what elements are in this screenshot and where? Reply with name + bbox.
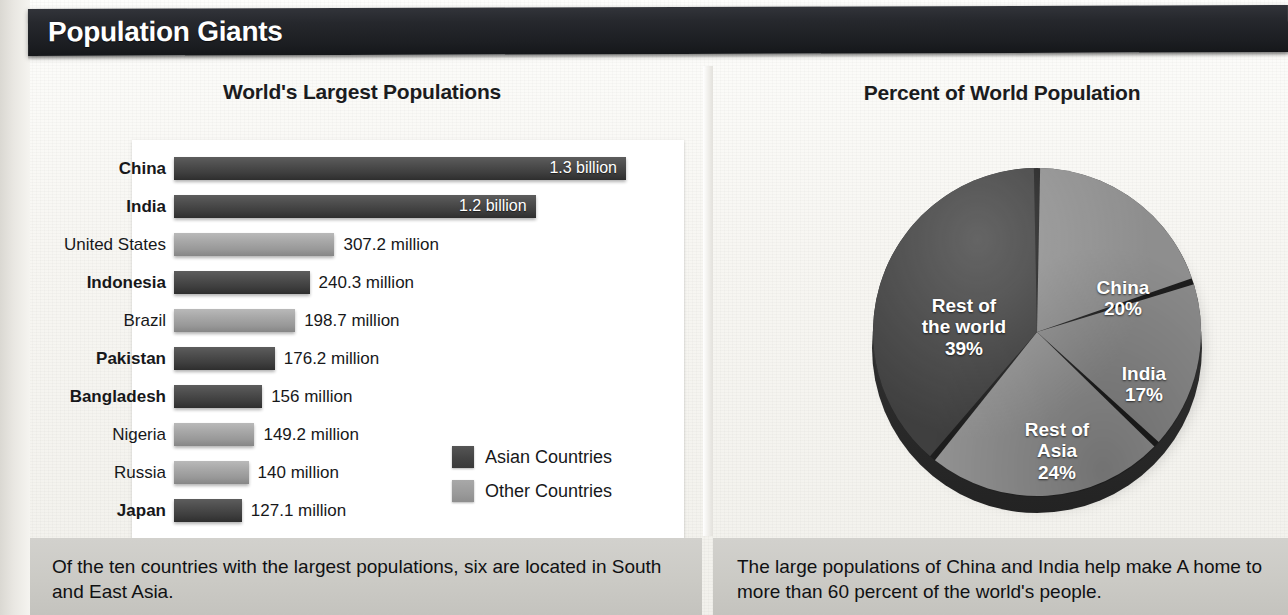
header-banner: Population Giants [28,5,1288,56]
bar-track: 307.2 million [174,233,334,256]
bar-track: 1.3 billion [174,157,626,180]
page-left-edge [0,0,30,615]
bar-row: Pakistan176.2 million [132,340,684,378]
left-caption-band: Of the ten countries with the largest po… [30,538,702,615]
bar-row: India1.2 billion [132,188,684,226]
pie-label-percent: 20% [1068,298,1178,319]
bar-track: 176.2 million [174,347,275,370]
legend-item-asian: Asian Countries [452,440,612,474]
bar-value-label: 1.2 billion [459,197,527,215]
bar-label-nigeria: Nigeria [30,425,166,445]
bar-label-india: India [30,197,166,217]
bar-russia: 140 million [174,461,249,484]
bar-pakistan: 176.2 million [174,347,275,370]
pie-label-percent: 39% [894,338,1034,359]
bar-value-label: 1.3 billion [549,159,617,177]
bar-united-states: 307.2 million [174,233,334,256]
bar-value-label: 156 million [271,386,352,406]
bar-label-china: China [30,159,166,179]
bar-track: 149.2 million [174,423,254,446]
bar-value-label: 140 million [258,462,339,482]
panel-divider [703,66,713,536]
bar-brazil: 198.7 million [174,309,295,332]
bar-label-united-states: United States [30,235,166,255]
bar-chart-plot-area: China1.3 billionIndia1.2 billionUnited S… [132,140,684,540]
pie-label-india: India17% [1094,363,1194,406]
pie-label-china: China20% [1068,277,1178,320]
pie-label-name: Rest ofAsia [1002,419,1112,462]
bar-row: China1.3 billion [132,150,684,188]
bar-track: 240.3 million [174,271,310,294]
pie-label-rest-of-asia: Rest ofAsia24% [1002,419,1112,483]
bar-japan: 127.1 million [174,499,242,522]
legend-label-other: Other Countries [485,481,612,502]
bar-label-bangladesh: Bangladesh [30,387,166,407]
pie-label-rest-of-the-world: Rest ofthe world39% [894,295,1034,359]
infographic-page: Population Giants World's Largest Popula… [0,0,1288,615]
bar-label-indonesia: Indonesia [30,273,166,293]
bar-india: 1.2 billion [174,195,536,218]
bar-row: Bangladesh156 million [132,378,684,416]
pie-label-percent: 24% [1002,462,1112,483]
right-caption-text: The large populations of China and India… [713,538,1288,605]
legend-swatch-asian-icon [452,446,474,468]
bar-value-label: 127.1 million [251,500,346,520]
bar-china: 1.3 billion [174,157,626,180]
legend-label-asian: Asian Countries [485,447,612,468]
bar-value-label: 240.3 million [319,272,414,292]
bar-label-brazil: Brazil [30,311,166,331]
pie-label-name: India [1094,363,1194,384]
left-caption-text: Of the ten countries with the largest po… [30,538,702,605]
bar-label-japan: Japan [30,501,166,521]
pie-chart: China20%India17%Rest ofAsia24%Rest ofthe… [872,167,1206,515]
bar-chart-legend: Asian Countries Other Countries [452,440,612,508]
pie-label-name: Rest ofthe world [894,295,1034,338]
bar-row: Indonesia240.3 million [132,264,684,302]
bar-track: 1.2 billion [174,195,536,218]
pie-label-name: China [1068,277,1178,298]
page-title: Population Giants [48,15,283,48]
bar-bangladesh: 156 million [174,385,262,408]
bar-nigeria: 149.2 million [174,423,254,446]
bar-track: 156 million [174,385,262,408]
right-caption-band: The large populations of China and India… [713,538,1288,615]
bar-chart-panel: World's Largest Populations China1.3 bil… [32,62,692,542]
bar-value-label: 307.2 million [343,234,438,254]
pie-chart-title: Percent of World Population [716,81,1288,105]
bar-label-russia: Russia [30,463,166,483]
bar-value-label: 198.7 million [304,310,399,330]
bar-indonesia: 240.3 million [174,271,310,294]
bar-track: 198.7 million [174,309,295,332]
bar-row: Brazil198.7 million [132,302,684,340]
bar-label-pakistan: Pakistan [30,349,166,369]
legend-item-other: Other Countries [452,474,612,508]
bar-track: 127.1 million [174,499,242,522]
bar-value-label: 176.2 million [284,348,379,368]
pie-chart-panel: Percent of World Population China20%Indi… [716,62,1288,542]
pie-label-percent: 17% [1094,384,1194,405]
bar-chart-title: World's Largest Populations [32,80,692,104]
bar-row: United States307.2 million [132,226,684,264]
legend-swatch-other-icon [452,480,474,502]
bar-track: 140 million [174,461,249,484]
bar-value-label: 149.2 million [263,424,358,444]
